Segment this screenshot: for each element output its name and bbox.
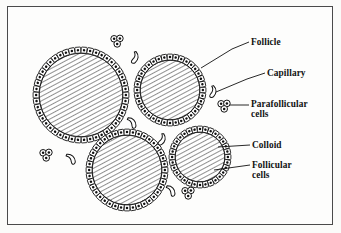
capillary-bottom xyxy=(165,184,177,197)
cluster-left xyxy=(40,149,52,161)
label-capillary: Capillary xyxy=(267,68,306,78)
label-follicular-line1: Follicular xyxy=(252,160,292,170)
capillary-top xyxy=(131,51,140,64)
follicles-layer xyxy=(33,47,231,211)
leader-capillary xyxy=(216,73,265,92)
capillary-center xyxy=(158,133,167,146)
capillary-left xyxy=(65,152,77,165)
capillary-mid-left xyxy=(126,116,138,129)
figure-root: FollicleCapillaryParafollicularcellsColl… xyxy=(0,0,341,233)
follicle-top-right xyxy=(134,54,206,126)
colloid-region xyxy=(39,53,123,137)
leader-follicle xyxy=(201,42,249,68)
label-parafollicular-line2: cells xyxy=(251,109,269,119)
colloid-region xyxy=(92,135,162,205)
label-parafollicular-line1: Parafollicular xyxy=(251,99,308,109)
follicle-bottom-right xyxy=(169,126,231,188)
label-colloid: Colloid xyxy=(252,140,282,150)
cluster-bottom xyxy=(182,187,194,199)
follicle-large-left xyxy=(33,47,129,143)
label-follicle-line1: Follicle xyxy=(251,37,281,47)
colloid-region xyxy=(140,60,200,120)
label-parafollicular: Parafollicularcells xyxy=(251,99,321,120)
label-follicle: Follicle xyxy=(251,37,281,47)
label-colloid-line1: Colloid xyxy=(252,140,282,150)
label-follicular-line2: cells xyxy=(252,170,270,180)
capillary-mid-right xyxy=(209,85,217,98)
follicle-bottom-left xyxy=(86,129,168,211)
cluster-top xyxy=(111,35,123,47)
label-follicular: Follicularcells xyxy=(252,160,322,181)
label-capillary-line1: Capillary xyxy=(267,68,306,78)
cluster-right xyxy=(218,100,230,112)
